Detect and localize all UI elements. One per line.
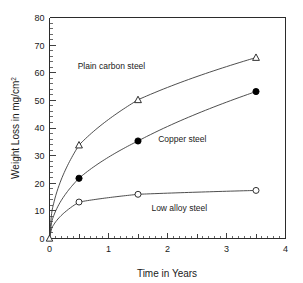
y-tick-label: 40	[34, 123, 44, 133]
x-axis-title: Time in Years	[137, 268, 197, 279]
y-tick-label: 10	[34, 206, 44, 216]
y-axis-title-text: Weight Loss in mg/cm	[10, 81, 21, 179]
data-point-marker-filled-circle	[135, 138, 141, 144]
y-tick-label: 80	[34, 13, 44, 23]
y-axis-title: Weight Loss in mg/cm2	[10, 77, 22, 179]
y-tick-label: 20	[34, 179, 44, 189]
y-tick-label: 70	[34, 41, 44, 51]
data-point-marker-filled-circle	[253, 88, 259, 94]
y-axis-title-superscript: 2	[10, 77, 17, 81]
svg-text:Weight Loss in mg/cm2: Weight Loss in mg/cm2	[10, 77, 22, 179]
data-point-marker-filled-circle	[76, 175, 82, 181]
chart-background	[0, 0, 303, 283]
y-tick-label: 50	[34, 96, 44, 106]
x-tick-label: 3	[224, 244, 229, 254]
y-tick-label: 0	[39, 234, 44, 244]
data-point-marker-open-circle	[76, 199, 82, 205]
x-tick-label: 4	[283, 244, 288, 254]
series-label-0: Plain carbon steel	[78, 61, 146, 71]
series-label-2: Low alloy steel	[151, 203, 207, 213]
y-axis-tick-labels: 01020304050607080	[34, 13, 44, 244]
x-tick-label: 1	[106, 244, 111, 254]
chart-figure: 01234 01020304050607080 Plain carbon ste…	[0, 0, 303, 283]
data-point-marker-open-circle	[135, 191, 141, 197]
series-label-1: Copper steel	[158, 134, 206, 144]
y-tick-label: 30	[34, 151, 44, 161]
x-tick-label: 0	[47, 244, 52, 254]
y-tick-label: 60	[34, 68, 44, 78]
data-point-marker-open-circle	[253, 187, 259, 193]
line-chart: 01234 01020304050607080 Plain carbon ste…	[0, 0, 303, 283]
x-tick-label: 2	[165, 244, 170, 254]
